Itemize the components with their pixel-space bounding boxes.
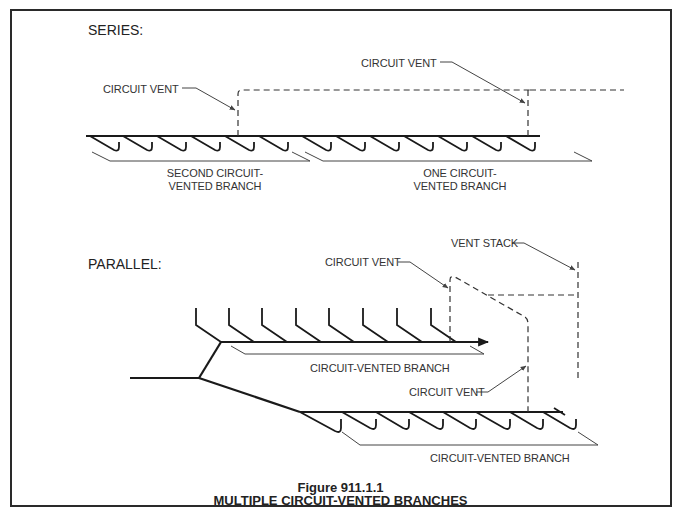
series-branch-brackets — [92, 152, 592, 161]
vent-stack-label: VENT STACK — [451, 237, 518, 249]
series-one-branch-label: ONE CIRCUIT- VENTED BRANCH — [410, 167, 510, 193]
parallel-upper-fixtures — [196, 308, 456, 342]
series-one-branch-label-line1: ONE CIRCUIT- — [410, 167, 510, 180]
parallel-lower-bracket — [342, 432, 598, 445]
parallel-lower-fixtures — [300, 412, 576, 432]
series-one-branch-label-line2: VENTED BRANCH — [410, 180, 510, 193]
series-second-branch-label: SECOND CIRCUIT- VENTED BRANCH — [160, 167, 270, 193]
figure-title: MULTIPLE CIRCUIT-VENTED BRANCHES — [0, 493, 681, 508]
series-circuit-vent-left-label: CIRCUIT VENT — [103, 83, 179, 95]
parallel-diagram — [130, 243, 598, 445]
series-circuit-vents — [238, 90, 624, 136]
parallel-circuit-vent-lower-label: CIRCUIT VENT — [409, 386, 485, 398]
parallel-upper-branch-label: CIRCUIT-VENTED BRANCH — [310, 362, 450, 374]
series-circuit-vent-right-label: CIRCUIT VENT — [361, 57, 437, 69]
parallel-circuit-vent-upper-label: CIRCUIT VENT — [325, 256, 401, 268]
parallel-main-drain — [130, 342, 300, 412]
parallel-upper-bracket — [231, 346, 484, 354]
parallel-heading: PARALLEL: — [88, 256, 162, 272]
series-second-branch-label-line1: SECOND CIRCUIT- — [160, 167, 270, 180]
series-leaders — [182, 62, 525, 110]
series-second-branch-label-line2: VENTED BRANCH — [160, 180, 270, 193]
series-heading: SERIES: — [88, 22, 143, 38]
parallel-lower-branch-label: CIRCUIT-VENTED BRANCH — [430, 452, 570, 464]
series-fixtures — [90, 136, 535, 151]
series-diagram — [86, 62, 624, 161]
